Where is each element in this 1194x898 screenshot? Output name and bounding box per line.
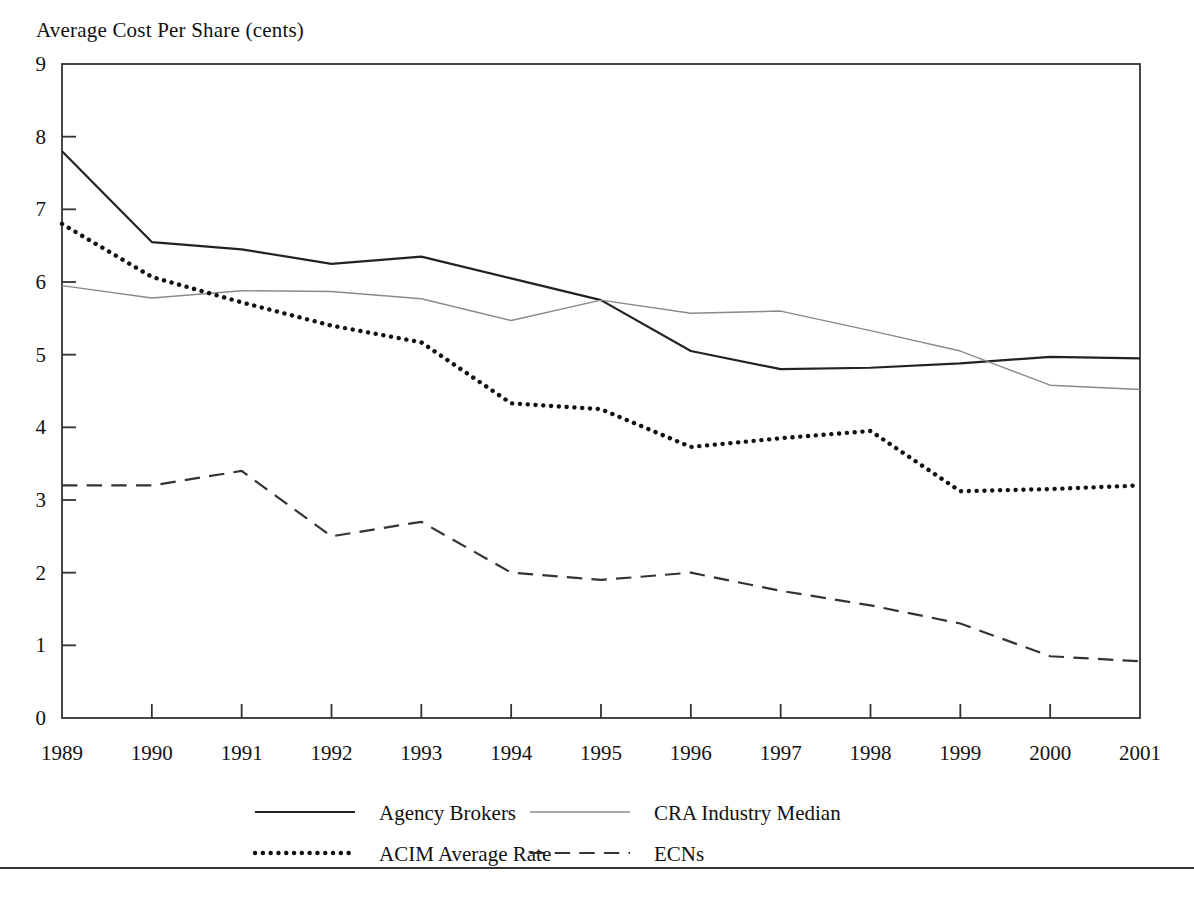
x-axis-tick-label: 1992	[311, 741, 353, 765]
series-line-1	[62, 151, 1140, 369]
legend-label: Agency Brokers	[379, 801, 516, 825]
y-axis-tick-label: 9	[36, 52, 47, 76]
x-axis-tick-label: 1991	[221, 741, 263, 765]
x-axis-tick-label: 1995	[580, 741, 622, 765]
line-chart: 0123456789198919901991199219931994199519…	[0, 0, 1194, 898]
legend-item-1: Agency Brokers	[255, 801, 516, 825]
figure: Average Cost Per Share (cents) 012345678…	[0, 0, 1194, 898]
x-axis-tick-label: 2000	[1029, 741, 1071, 765]
footer-divider	[0, 867, 1194, 869]
y-axis-tick-label: 7	[36, 197, 47, 221]
legend-label: ACIM Average Rate	[379, 842, 551, 866]
y-axis-tick-label: 8	[36, 125, 47, 149]
legend-label: ECNs	[654, 842, 704, 866]
x-axis-tick-label: 1998	[850, 741, 892, 765]
plot-frame	[62, 64, 1140, 718]
legend-item-3: ACIM Average Rate	[255, 842, 551, 866]
x-axis-tick-label: 1989	[41, 741, 83, 765]
legend-label: CRA Industry Median	[654, 801, 841, 825]
x-axis-tick-label: 1993	[400, 741, 442, 765]
legend-item-2: CRA Industry Median	[530, 801, 841, 825]
x-axis-tick-label: 1999	[939, 741, 981, 765]
y-axis-tick-label: 0	[36, 706, 47, 730]
x-axis-tick-label: 1990	[131, 741, 173, 765]
y-axis-tick-label: 5	[36, 343, 47, 367]
y-axis-tick-label: 6	[36, 270, 47, 294]
y-axis-tick-label: 2	[36, 561, 47, 585]
series-line-4	[62, 471, 1140, 661]
x-axis-tick-label: 1997	[760, 741, 802, 765]
x-axis-tick-label: 1996	[670, 741, 712, 765]
x-axis-tick-label: 2001	[1119, 741, 1161, 765]
y-axis-tick-label: 1	[36, 633, 47, 657]
legend-item-4: ECNs	[530, 842, 704, 866]
y-axis-tick-label: 4	[36, 415, 47, 439]
y-axis-tick-label: 3	[36, 488, 47, 512]
x-axis-tick-label: 1994	[490, 741, 533, 765]
